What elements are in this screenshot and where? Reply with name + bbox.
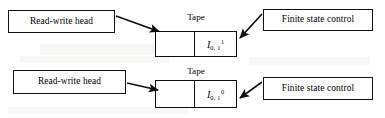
arrow-control-to-tape-top bbox=[240, 14, 262, 38]
turing-machine-diagram: Read-write head Tape I0, 11 Finite state… bbox=[0, 0, 385, 118]
arrow-head-to-tape-top bbox=[116, 16, 159, 32]
arrow-control-to-tape-bottom bbox=[240, 82, 262, 98]
arrow-layer bbox=[0, 0, 385, 118]
arrow-head-to-tape-bottom bbox=[127, 83, 158, 90]
